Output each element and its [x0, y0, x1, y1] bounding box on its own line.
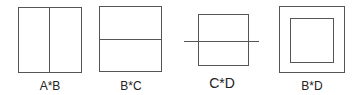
label-b-c: B*C	[120, 79, 142, 93]
square	[199, 15, 249, 66]
label-c-d: C*D	[209, 75, 235, 91]
diagram-canvas: A*B B*C C*D B*D	[0, 0, 362, 95]
figure-c-d	[184, 15, 259, 66]
figure-b-d	[280, 7, 345, 73]
figure-b-c	[100, 7, 162, 72]
inner-square	[291, 19, 334, 63]
figure-a-b	[19, 8, 82, 73]
label-a-b: A*B	[40, 79, 61, 93]
label-b-d: B*D	[301, 79, 323, 93]
